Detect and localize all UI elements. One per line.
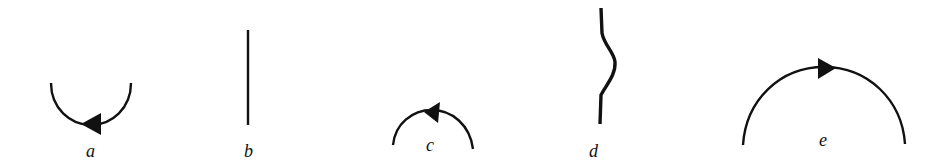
label-c: c [426,135,434,155]
figure-a: a [51,83,131,161]
label-b: b [244,141,253,161]
arrow-right-icon [818,58,836,79]
label-d: d [589,141,599,161]
label-a: a [86,141,95,161]
figure-c: c [393,102,473,155]
arrow-left-icon [81,113,101,135]
diagram-canvas: a b c d e [0,0,948,166]
figure-e: e [743,58,905,150]
wavy-line-d [600,8,615,124]
figure-d: d [589,8,615,161]
arrow-left-icon [424,102,440,123]
label-e: e [819,130,827,150]
figure-b: b [244,30,253,161]
